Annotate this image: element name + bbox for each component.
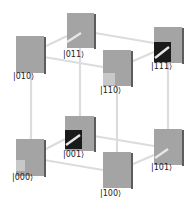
square-edge [131,153,133,189]
edge-110-111 [131,52,154,62]
node-000: |000⟩ [12,139,46,182]
node-110: |110⟩ [100,50,133,95]
edge-011-111 [95,33,154,43]
node-001: |001⟩ [63,116,96,159]
node-label: |101⟩ [151,163,172,172]
node-010: |010⟩ [13,36,46,81]
phase-indicator-light [16,160,25,171]
square-edge [182,130,184,166]
node-label: |100⟩ [100,189,121,198]
square-edge [44,37,46,74]
square-edge [131,51,133,87]
node-101: |101⟩ [151,129,184,172]
node-label: |110⟩ [100,86,121,95]
edge-000-100 [44,160,103,170]
amplitude-square [67,13,94,48]
node-label: |001⟩ [63,150,84,159]
state-cube-diagram: |011⟩ |010⟩ |111⟩ |110⟩ |001⟩ |000⟩ [0,0,195,206]
square-edge [44,140,46,177]
edge-001-101 [94,136,154,146]
node-label: |011⟩ [63,50,84,59]
square-edge [182,28,184,64]
phase-indicator-light [103,73,115,85]
node-label: |010⟩ [13,72,34,81]
cube-edges [31,33,168,170]
edge-010-011 [44,36,67,47]
square-edge [94,14,96,49]
node-111: |111⟩ [151,27,184,71]
node-label: |111⟩ [151,62,172,71]
amplitude-square [103,152,131,188]
edge-000-001 [44,139,65,150]
amplitude-square [154,129,182,165]
amplitude-square [16,36,44,73]
node-label: |000⟩ [12,173,33,182]
node-011: |011⟩ [63,13,96,59]
node-100: |100⟩ [100,152,133,198]
square-edge [94,117,96,152]
